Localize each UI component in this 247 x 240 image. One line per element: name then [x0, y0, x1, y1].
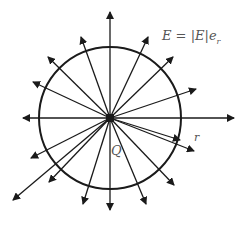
point-charge-marker — [106, 114, 114, 122]
field-arrow — [49, 118, 110, 182]
field-arrow — [110, 89, 196, 118]
field-arrow — [48, 57, 110, 118]
field-arrow — [110, 57, 173, 118]
field-equation-text: E = |E|e — [162, 28, 217, 43]
field-arrow — [83, 118, 110, 204]
field-equation-label: E = |E|er — [162, 29, 220, 46]
field-arrow — [110, 118, 146, 204]
charge-label: Q — [111, 144, 122, 157]
field-equation-subscript: r — [217, 37, 221, 46]
radius-label: r — [194, 132, 199, 143]
